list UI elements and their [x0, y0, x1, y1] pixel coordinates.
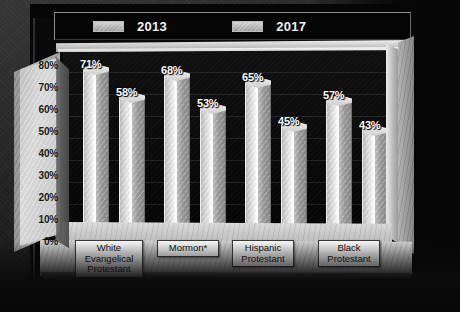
- bar-body: [200, 109, 226, 226]
- y-tick-70: 70%: [39, 82, 58, 93]
- bar-body: [119, 98, 145, 226]
- value-label-2017-hispanic-protestant: 45%: [278, 115, 299, 127]
- bar-body: [164, 76, 190, 226]
- gridline-70: [63, 72, 388, 73]
- value-label-2013-white-evangelical-protestant: 71%: [80, 58, 101, 70]
- value-label-2013-black-protestant: 57%: [323, 89, 344, 101]
- bar-2013-black-protestant: [326, 101, 352, 226]
- value-label-2017-black-protestant: 43%: [359, 119, 380, 131]
- bar-2017-mormon: [200, 109, 226, 226]
- plot-area: 71% 58% 68% 53% 65% 45% 57% 43%: [63, 46, 388, 226]
- bar-body: [362, 131, 388, 226]
- bar-body: [281, 127, 307, 226]
- value-label-2017-mormon: 53%: [197, 97, 218, 109]
- value-label-2013-mormon: 68%: [161, 64, 182, 76]
- chart-screenshot: 2013 2017: [0, 0, 460, 312]
- chart-frame-right-rail-outer: [398, 36, 414, 254]
- background-bottom-shade: [0, 242, 460, 312]
- y-tick-20: 20%: [39, 192, 58, 203]
- bar-2013-mormon: [164, 76, 190, 226]
- y-tick-80: 80%: [39, 60, 58, 71]
- y-tick-10: 10%: [39, 214, 58, 225]
- bar-2017-black-protestant: [362, 131, 388, 226]
- bar-2017-hispanic-protestant: [281, 127, 307, 226]
- bar-body: [245, 83, 271, 226]
- bar-body: [83, 70, 109, 226]
- y-tick-50: 50%: [39, 126, 58, 137]
- value-label-2013-hispanic-protestant: 65%: [242, 71, 263, 83]
- y-tick-60: 60%: [39, 104, 58, 115]
- bar-2017-white-evangelical-protestant: [119, 98, 145, 226]
- value-label-2017-white-evangelical-protestant: 58%: [116, 86, 137, 98]
- chart-frame-right-rail: [386, 44, 400, 244]
- y-axis-tick-labels: 80% 70% 60% 50% 40% 30% 20% 10% 0%: [18, 56, 60, 248]
- y-tick-30: 30%: [39, 170, 58, 181]
- bar-body: [326, 101, 352, 226]
- bar-2013-white-evangelical-protestant: [83, 70, 109, 226]
- y-tick-40: 40%: [39, 148, 58, 159]
- bar-2013-hispanic-protestant: [245, 83, 271, 226]
